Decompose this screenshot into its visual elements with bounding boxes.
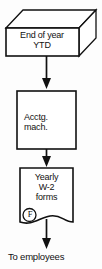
connector-process-to-document (42, 149, 51, 167)
arrowhead-icon-2 (42, 156, 51, 167)
node-terminal-label: To employees (2, 252, 100, 263)
arrowhead-icon-3 (42, 238, 51, 249)
arrowhead-icon-1 (42, 78, 51, 89)
connector-document-to-terminal (42, 219, 51, 249)
node-process-label: Acctg. mach. (17, 112, 76, 132)
connector-reference-label: F (22, 210, 38, 220)
flowchart-diagram: End of year YTD Acctg. mach. Yearly W-2 … (0, 0, 102, 269)
node-document-label: Yearly W-2 forms (20, 172, 73, 202)
connector-start-to-process (42, 56, 51, 89)
node-start-label: End of year YTD (6, 30, 78, 50)
